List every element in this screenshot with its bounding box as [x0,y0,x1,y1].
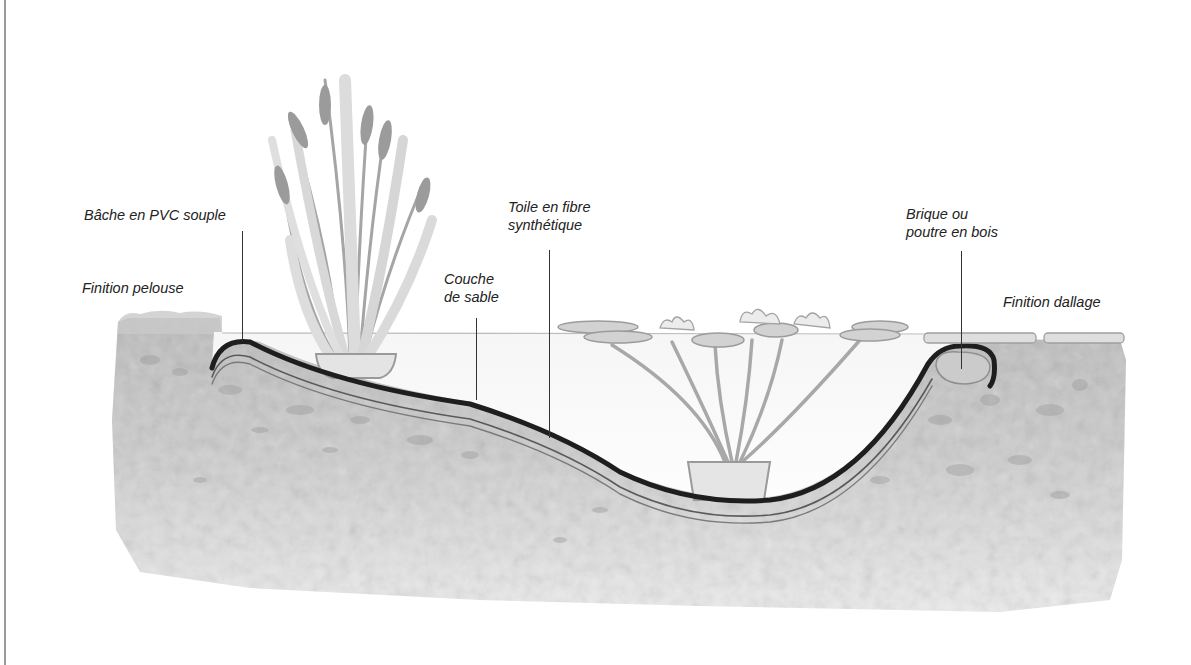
grass-edge [118,311,222,334]
label-finition-dallage: Finition dallage [1003,293,1101,311]
label-brique-poutre: Brique ou poutre en bois [906,205,998,241]
label-bache-pvc: Bâche en PVC souple [84,206,226,224]
label-couche-sable-line-1: Couche [444,270,499,288]
label-finition-pelouse: Finition pelouse [82,279,184,297]
leader-line-toile [549,250,550,438]
paving-slabs [924,333,1124,343]
label-finition-pelouse-line-1: Finition pelouse [82,280,184,296]
pond-cross-section-illustration [0,0,1191,665]
label-couche-sable: Couche de sable [444,270,499,306]
lily-flowers [660,309,830,330]
label-brique-poutre-line-1: Brique ou [906,205,998,223]
water-lily-pot [688,462,770,500]
label-couche-sable-line-2: de sable [444,288,499,306]
edge-brick [936,352,990,384]
label-toile-fibre-line-1: Toile en fibre [508,198,591,216]
label-brique-poutre-line-2: poutre en bois [906,223,998,241]
leader-line-brique [961,251,962,369]
label-finition-dallage-line-1: Finition dallage [1003,294,1101,310]
leader-line-sable [476,318,477,400]
label-bache-pvc-line-1: Bâche en PVC souple [84,207,226,223]
label-toile-fibre: Toile en fibre synthétique [508,198,591,234]
label-toile-fibre-line-2: synthétique [508,216,591,234]
leader-line-bache [242,231,243,341]
